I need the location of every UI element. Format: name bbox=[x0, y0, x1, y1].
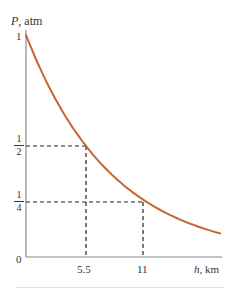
bottom-divider bbox=[15, 287, 225, 288]
y-axis-label: P, atm bbox=[11, 15, 42, 27]
y-tick-half: 1 2 bbox=[14, 134, 24, 157]
y-tick-1: 1 bbox=[16, 31, 22, 42]
pressure-altitude-chart bbox=[0, 0, 236, 290]
x-tick-5-5: 5.5 bbox=[77, 264, 91, 275]
y-tick-0: 0 bbox=[16, 254, 22, 265]
x-tick-11: 11 bbox=[137, 264, 148, 275]
pressure-curve bbox=[26, 35, 220, 233]
guide-quarter bbox=[26, 202, 143, 257]
x-axis-label: h, km bbox=[194, 264, 219, 275]
y-tick-quarter: 1 4 bbox=[14, 190, 24, 213]
